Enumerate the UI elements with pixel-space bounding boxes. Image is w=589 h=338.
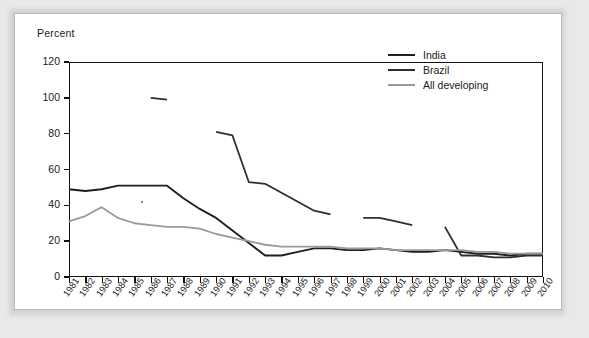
y-axis-title: Percent bbox=[37, 27, 75, 39]
legend-swatch-icon bbox=[388, 69, 415, 71]
legend-swatch-icon bbox=[388, 54, 415, 56]
figure-card: Percent 020406080100120 1981198219831984… bbox=[14, 13, 562, 310]
legend-label: Brazil bbox=[423, 64, 449, 76]
legend-label: India bbox=[423, 49, 446, 61]
legend-label: All developing bbox=[423, 79, 488, 91]
y-tick-label: 60 bbox=[48, 163, 60, 175]
y-tick-label: 80 bbox=[48, 127, 60, 139]
legend-swatch-icon bbox=[388, 84, 415, 86]
series-line-all-developing bbox=[69, 207, 543, 254]
y-tick-label: 20 bbox=[48, 234, 60, 246]
legend: IndiaBrazilAll developing bbox=[388, 47, 528, 92]
legend-item-brazil: Brazil bbox=[388, 62, 528, 77]
legend-item-all-developing: All developing bbox=[388, 77, 528, 92]
scan-artifact-speck bbox=[141, 201, 143, 203]
series-line-india bbox=[69, 186, 543, 256]
series-line-brazil bbox=[151, 98, 167, 100]
plot-area: 020406080100120 198119821983198419851986… bbox=[69, 62, 543, 277]
series-line-brazil bbox=[363, 218, 412, 225]
series-line-brazil bbox=[216, 132, 330, 214]
y-tick-label: 120 bbox=[42, 55, 60, 67]
screenshot-root: Percent 020406080100120 1981198219831984… bbox=[0, 0, 589, 338]
y-tick-label: 0 bbox=[54, 270, 60, 282]
y-tick-label: 40 bbox=[48, 198, 60, 210]
y-tick-label: 100 bbox=[42, 91, 60, 103]
legend-item-india: India bbox=[388, 47, 528, 62]
series-lines bbox=[69, 62, 543, 277]
